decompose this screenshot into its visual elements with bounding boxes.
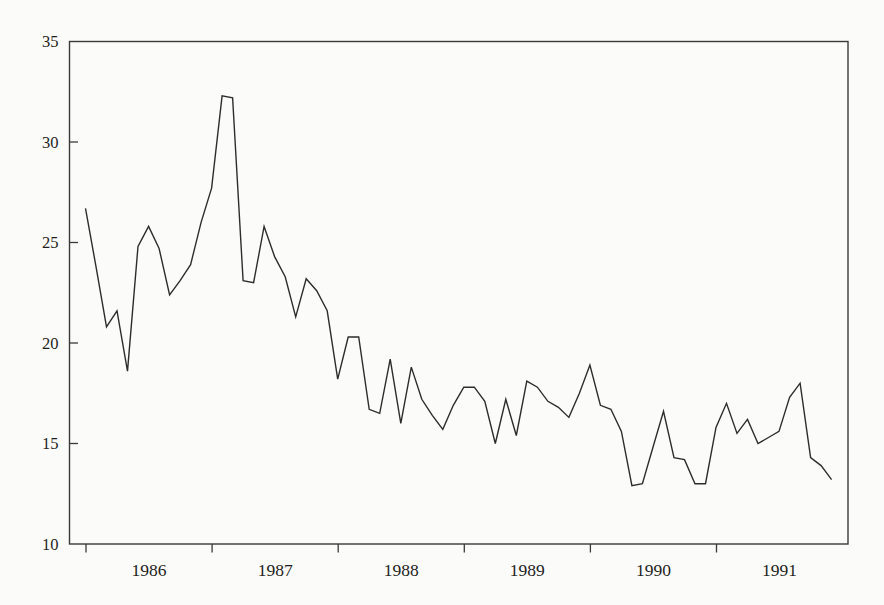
x-axis-year-label: 1989 [510, 560, 545, 580]
y-axis-tick-label: 20 [42, 334, 59, 353]
scanned-page: 101520253035198619871988198919901991 [0, 0, 884, 605]
time-series-chart: 101520253035198619871988198919901991 [0, 0, 884, 605]
x-axis-year-label: 1986 [132, 560, 167, 580]
y-axis-tick-label: 10 [42, 535, 59, 554]
y-axis-tick-label: 15 [42, 434, 59, 453]
x-axis-year-label: 1991 [762, 560, 797, 580]
y-axis-tick-label: 35 [42, 32, 59, 51]
line-chart-svg: 101520253035198619871988198919901991 [0, 0, 884, 605]
x-axis-year-label: 1990 [636, 560, 671, 580]
x-axis-year-label: 1987 [258, 560, 293, 580]
x-axis-year-label: 1988 [384, 560, 419, 580]
y-axis-tick-label: 30 [42, 133, 59, 152]
y-axis-tick-label: 25 [42, 233, 59, 252]
